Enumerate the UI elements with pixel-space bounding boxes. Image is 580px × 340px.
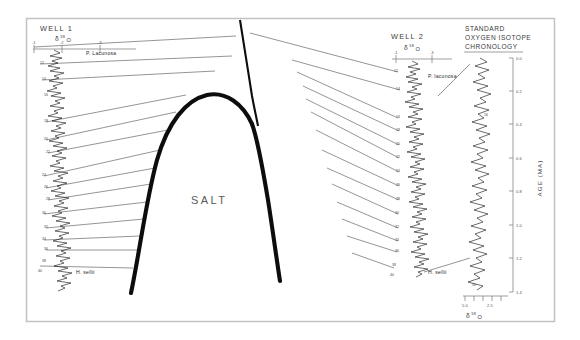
well1-stage-12: 36 [44,247,48,251]
well1-stage-10: 32 [44,225,48,229]
well2-stage-1: 14 [396,87,400,91]
figure-canvas: SALT WELL 1 δ 18 O -1 -2 -3 12 14 16 18 … [0,0,580,340]
well2-stage-4: 20 [396,142,400,146]
chronology-title-line-2: CHRONOLOGY [465,43,518,50]
well2-stage-9: 30 [395,211,399,215]
well1-stage-8: 28 [46,197,50,201]
well1-stage-11: 34 [42,237,46,241]
well2-delta-superscript: 18 [409,43,414,48]
well2-marker-h-sellii: H. sellii [428,269,447,275]
age-tick-6: 1.2 [516,256,522,261]
well1-stage-5: 22 [46,150,50,154]
age-axis-title: AGE (MA) [536,160,543,197]
well2-stage-11: 34 [395,238,399,242]
well1-stage-1: 14 [42,77,46,81]
chronology-stage-1: 50 [472,283,476,287]
well2-marker-p-lacunosa: P. lacunosa [428,73,457,79]
well1-stage-6: 24 [42,173,46,177]
well2-stage-5: 22 [396,155,400,159]
well1-stage-4: 20 [44,137,48,141]
well2-stage-13: 38 [392,263,396,267]
age-tick-7: 1.4 [516,290,522,295]
well2-stage-10: 32 [395,225,399,229]
well2-stage-0: 12 [394,69,398,73]
well1-delta-subscript: O [67,37,72,43]
well2-stage-7: 26 [396,183,400,187]
age-tick-4: 0.8 [516,189,522,194]
well1-title: WELL 1 [40,24,73,33]
well2-stage-12: 36 [395,249,399,253]
chronology-delta-superscript: 18 [471,311,476,316]
well1-stage-13: 38 [42,259,46,263]
chronology-delta-symbol: δ [466,312,470,319]
well1-delta-superscript: 18 [60,34,65,39]
well1-marker-p-lacunosa: P. Lacunosa [86,50,116,56]
well1-stage-0: 12 [40,61,44,65]
well2-stage-14: 40 [390,273,394,277]
age-tick-0: 0.0 [516,56,522,61]
well2-delta-symbol: δ [404,44,408,51]
well2-stage-6: 24 [396,169,400,173]
well1-stage-7: 26 [44,185,48,189]
well1-stage-2: 16 [44,93,48,97]
age-tick-3: 0.6 [516,156,522,161]
well2-delta-subscript: O [416,46,421,52]
delta-tick-0: 5.0 [462,303,468,308]
chronology-title-line-0: STANDARD [465,25,505,32]
well1-delta-symbol: δ [55,35,59,42]
age-tick-2: 0.4 [516,122,522,127]
well1-marker-h-sellii: H. sellii [76,269,95,275]
well1-stage-3: 18 [44,119,48,123]
salt-label: SALT [191,194,227,206]
well2-stage-3: 18 [396,128,400,132]
chronology-title-line-1: OXYGEN ISOTOPE [465,34,531,41]
chronology-stage-0: 16 [484,113,488,117]
well2-stage-8: 28 [396,197,400,201]
well2-title: WELL 2 [391,32,424,41]
delta-tick-1: 2.5 [487,303,493,308]
age-tick-1: 0.2 [516,89,522,94]
well1-stage-14: 40 [38,269,42,273]
chronology-delta-subscript: O [478,314,483,320]
well1-stage-9: 30 [42,211,46,215]
well2-stage-2: 16 [396,115,400,119]
age-tick-5: 1.0 [516,223,522,228]
